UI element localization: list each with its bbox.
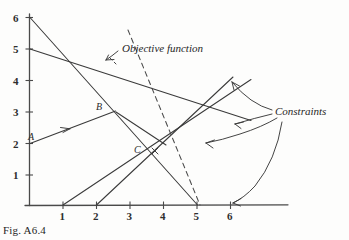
x-tick-label-1: 1 (60, 210, 66, 222)
y-tick-label-3: 3 (13, 106, 19, 118)
y-tick-label-1: 1 (13, 169, 19, 181)
point-label-b: B (96, 101, 102, 112)
x-tick-label-3: 3 (127, 210, 133, 222)
x-tick-label-6: 6 (227, 210, 233, 222)
x-tick-label-5: 5 (194, 210, 200, 222)
y-axis-tick-labels: 6 5 4 3 2 1 (13, 12, 19, 182)
point-label-c: C (134, 144, 141, 155)
figure-container: 6 5 4 3 2 1 1 2 3 4 5 6 (0, 0, 349, 240)
constraints-leader-1 (232, 82, 272, 110)
objective-function-label: Objective function (122, 42, 203, 54)
y-tick-label-4: 4 (13, 75, 19, 87)
linear-programming-plot: 6 5 4 3 2 1 1 2 3 4 5 6 (0, 0, 349, 240)
x-axis-tick-labels: 1 2 3 4 5 6 (60, 210, 234, 222)
objective-dashed-connector (110, 58, 116, 64)
point-labels-group: A B C (27, 101, 158, 155)
x-tick-label-2: 2 (93, 210, 99, 222)
constraints-annotation: Constraints (206, 82, 326, 206)
y-tick-label-2: 2 (13, 138, 19, 150)
point-label-a: A (27, 131, 35, 142)
y-tick-label-5: 5 (13, 43, 19, 55)
constraints-label: Constraints (275, 105, 326, 117)
segment-a-to-b (30, 111, 116, 144)
constraint-line-3 (63, 80, 251, 206)
x-tick-label-4: 4 (160, 210, 166, 222)
objective-function-annotation: Objective function (106, 42, 203, 64)
x-axis (25, 205, 288, 206)
segment-b-to-c (116, 112, 166, 145)
constraints-arrowhead-2 (235, 122, 244, 129)
figure-caption: Fig. A6.4 (3, 224, 46, 236)
y-tick-label-6: 6 (13, 12, 19, 24)
feasible-region-path (30, 111, 166, 145)
